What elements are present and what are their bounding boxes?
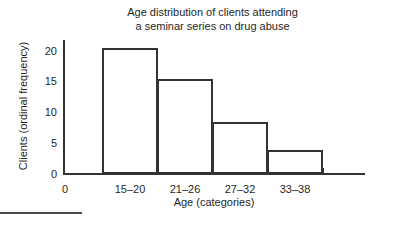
x-tick-label-33-38: 33–38 (280, 183, 311, 195)
x-tick-mark-0 (102, 168, 104, 175)
x-axis-label: Age (categories) (63, 196, 365, 208)
bar-27-32 (212, 122, 268, 174)
histogram-figure: Age distribution of clients attending a … (0, 0, 412, 228)
bar-15-20 (102, 48, 158, 174)
y-tick-label-15: 15 (45, 75, 57, 87)
x-tick-mark-3 (267, 168, 269, 175)
chart-title-line-2: a seminar series on drug abuse (60, 20, 365, 34)
y-axis-label: Clients (ordinal frequency) (17, 42, 29, 170)
x-tick-mark-4 (322, 168, 324, 175)
plot-area: 0 5 10 15 20 0 15–20 21–26 27–32 33–38 (63, 40, 365, 175)
y-tick-label-5: 5 (51, 137, 57, 149)
y-axis-label-container: Clients (ordinal frequency) (14, 32, 32, 180)
chart-title: Age distribution of clients attending a … (60, 6, 365, 33)
x-tick-label-15-20: 15–20 (115, 183, 146, 195)
bar-21-26 (157, 79, 213, 174)
y-tick-label-10: 10 (45, 106, 57, 118)
y-axis-line (63, 40, 65, 175)
x-tick-label-27-32: 27–32 (225, 183, 256, 195)
y-tick-label-20: 20 (45, 45, 57, 57)
footer-divider (0, 212, 82, 214)
x-tick-mark-2 (212, 168, 214, 175)
x-tick-label-origin: 0 (62, 183, 68, 195)
bar-33-38 (267, 150, 323, 174)
x-tick-mark-1 (157, 168, 159, 175)
y-tick-label-0: 0 (51, 168, 57, 180)
x-tick-label-21-26: 21–26 (170, 183, 201, 195)
chart-title-line-1: Age distribution of clients attending (60, 6, 365, 20)
